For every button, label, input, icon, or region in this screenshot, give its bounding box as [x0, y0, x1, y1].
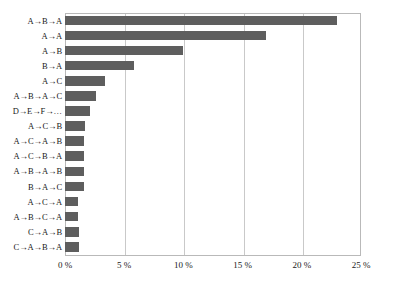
bar-category-label: D→E→F→… — [0, 106, 65, 116]
bar — [65, 16, 337, 26]
bar-row: C→A→B — [0, 224, 398, 239]
bar-track — [65, 13, 361, 28]
bar-row: A→C — [0, 73, 398, 88]
x-axis-tick-label: 5 % — [117, 259, 131, 271]
bar-category-label: C→A→B — [0, 227, 65, 237]
bar-track — [65, 104, 361, 119]
bar-chart: A→B→AA→AA→BB→AA→CA→B→A→CD→E→F→…A→C→BA→C→… — [0, 0, 398, 302]
bar-row: A→C→B — [0, 119, 398, 134]
bar-track — [65, 179, 361, 194]
bar-category-label: A→B→C→A — [0, 212, 65, 222]
bar — [65, 61, 134, 71]
bar-track — [65, 164, 361, 179]
bar-row: A→B→A→B — [0, 164, 398, 179]
bar — [65, 182, 84, 192]
bar-row: A→A — [0, 28, 398, 43]
bar-row: D→E→F→… — [0, 104, 398, 119]
bar — [65, 136, 84, 146]
bar — [65, 91, 96, 101]
bar-row: A→B — [0, 43, 398, 58]
bar — [65, 242, 79, 252]
bar-row: A→B→A→C — [0, 88, 398, 103]
bar-row: C→A→B→A — [0, 239, 398, 254]
bar-category-label: A→C→B→A — [0, 151, 65, 161]
bar-track — [65, 224, 361, 239]
bar-row: A→B→A — [0, 13, 398, 28]
bar — [65, 197, 78, 207]
bar-track — [65, 28, 361, 43]
bar-track — [65, 73, 361, 88]
bar-track — [65, 119, 361, 134]
bar-rows: A→B→AA→AA→BB→AA→CA→B→A→CD→E→F→…A→C→BA→C→… — [0, 13, 398, 256]
bar — [65, 31, 266, 41]
bar-track — [65, 88, 361, 103]
bar-row: A→B→C→A — [0, 209, 398, 224]
bar-category-label: A→C→A→B — [0, 136, 65, 146]
bar-track — [65, 134, 361, 149]
bar-category-label: A→C→B — [0, 121, 65, 131]
x-axis-tick-label: 0 % — [58, 259, 72, 271]
bar — [65, 227, 79, 237]
x-axis-tick-label: 25 % — [352, 259, 371, 271]
bar — [65, 106, 90, 116]
bar-row: B→A→C — [0, 179, 398, 194]
bar-category-label: A→B→A→B — [0, 166, 65, 176]
bar-track — [65, 194, 361, 209]
bar-category-label: A→C→A — [0, 197, 65, 207]
x-axis-tick-label: 20 % — [292, 259, 311, 271]
bar-category-label: A→A — [0, 31, 65, 41]
bar — [65, 151, 84, 161]
bar-track — [65, 209, 361, 224]
bar-category-label: A→B→A→C — [0, 91, 65, 101]
bar — [65, 46, 183, 56]
bar-category-label: B→A — [0, 61, 65, 71]
bar-row: A→C→A — [0, 194, 398, 209]
bar-track — [65, 58, 361, 73]
bar — [65, 121, 85, 131]
bar-track — [65, 149, 361, 164]
bar — [65, 167, 84, 177]
bar-track — [65, 43, 361, 58]
x-axis-tick-label: 10 % — [174, 259, 193, 271]
bar-category-label: C→A→B→A — [0, 242, 65, 252]
bar-category-label: A→B→A — [0, 16, 65, 26]
bar-category-label: B→A→C — [0, 182, 65, 192]
bar-track — [65, 239, 361, 254]
bar-row: A→C→B→A — [0, 149, 398, 164]
bar-row: A→C→A→B — [0, 134, 398, 149]
bar-category-label: A→C — [0, 76, 65, 86]
bar — [65, 76, 105, 86]
bar-row: B→A — [0, 58, 398, 73]
bar-category-label: A→B — [0, 46, 65, 56]
x-axis-tick-label: 15 % — [233, 259, 252, 271]
x-axis: 0 %5 %10 %15 %20 %25 % — [65, 259, 361, 279]
bar — [65, 212, 78, 222]
